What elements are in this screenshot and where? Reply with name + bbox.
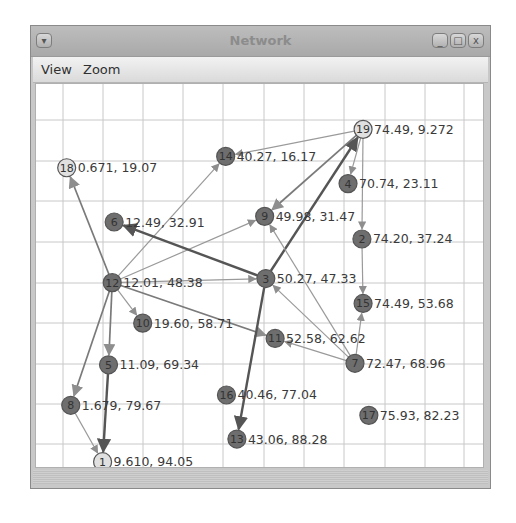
graph-node-17[interactable]: 1775.93, 82.23 bbox=[360, 406, 460, 424]
graph-node-12[interactable]: 1212.01, 48.38 bbox=[103, 274, 203, 292]
graph-node-1[interactable]: 19.610, 94.05 bbox=[94, 453, 194, 468]
window-title: Network bbox=[31, 33, 490, 48]
edge-2-to-15 bbox=[362, 248, 363, 293]
minimize-icon: _ bbox=[438, 35, 443, 46]
node-id: 13 bbox=[230, 433, 244, 446]
node-coordinate-label: 9.610, 94.05 bbox=[114, 454, 194, 468]
graph-node-6[interactable]: 612.49, 32.91 bbox=[105, 213, 205, 231]
edge-7-to-3 bbox=[273, 285, 348, 357]
graph-node-16[interactable]: 1640.46, 77.04 bbox=[217, 386, 317, 404]
graph-node-18[interactable]: 180.671, 19.07 bbox=[58, 159, 158, 177]
node-coordinate-label: 19.60, 58.71 bbox=[154, 316, 234, 331]
node-coordinate-label: 70.74, 23.11 bbox=[359, 176, 439, 191]
node-id: 15 bbox=[356, 297, 370, 310]
graph-node-4[interactable]: 470.74, 23.11 bbox=[339, 175, 439, 193]
node-coordinate-label: 72.47, 68.96 bbox=[366, 356, 446, 371]
node-coordinate-label: 40.46, 77.04 bbox=[237, 387, 317, 402]
node-id: 12 bbox=[105, 277, 119, 290]
graph-node-11[interactable]: 1152.58, 62.62 bbox=[266, 329, 366, 347]
edge-8-to-1 bbox=[75, 413, 97, 453]
edge-3-to-13 bbox=[239, 287, 265, 429]
node-id: 2 bbox=[358, 233, 365, 246]
node-id: 14 bbox=[219, 150, 233, 163]
node-coordinate-label: 0.671, 19.07 bbox=[78, 160, 158, 175]
graph-node-10[interactable]: 1019.60, 58.71 bbox=[134, 314, 234, 332]
menu-zoom[interactable]: Zoom bbox=[83, 62, 120, 77]
node-id: 4 bbox=[345, 178, 352, 191]
graph-node-9[interactable]: 949.98, 31.47 bbox=[256, 207, 356, 225]
graph-node-5[interactable]: 511.09, 69.34 bbox=[100, 356, 200, 374]
node-coordinate-label: 75.93, 82.23 bbox=[380, 408, 460, 423]
node-id: 10 bbox=[136, 317, 150, 330]
window-bottom-frame bbox=[33, 470, 488, 484]
node-id: 5 bbox=[105, 359, 112, 372]
menu-view[interactable]: View bbox=[41, 62, 72, 77]
nodes-layer: 19.610, 94.05274.20, 37.24350.27, 47.334… bbox=[58, 120, 460, 468]
graph-node-7[interactable]: 772.47, 68.96 bbox=[346, 354, 446, 372]
node-coordinate-label: 1.679, 79.67 bbox=[82, 398, 162, 413]
node-id: 9 bbox=[261, 210, 268, 223]
node-id: 11 bbox=[268, 332, 282, 345]
maximize-icon: □ bbox=[453, 35, 462, 46]
node-id: 6 bbox=[111, 216, 118, 229]
node-id: 3 bbox=[262, 273, 269, 286]
graph-node-15[interactable]: 1574.49, 53.68 bbox=[354, 294, 454, 312]
node-coordinate-label: 43.06, 88.28 bbox=[248, 432, 328, 447]
network-window: ▾ Network _ □ x View Zoom bbox=[30, 25, 491, 489]
node-coordinate-label: 12.49, 32.91 bbox=[125, 215, 205, 230]
node-id: 18 bbox=[60, 162, 74, 175]
close-button[interactable]: x bbox=[468, 33, 484, 48]
node-id: 1 bbox=[99, 456, 106, 468]
graph-node-8[interactable]: 81.679, 79.67 bbox=[62, 396, 162, 414]
graph-node-3[interactable]: 350.27, 47.33 bbox=[257, 270, 357, 288]
maximize-button[interactable]: □ bbox=[450, 33, 466, 48]
edge-19-to-4 bbox=[351, 138, 361, 174]
node-id: 19 bbox=[356, 123, 370, 136]
node-coordinate-label: 12.01, 48.38 bbox=[123, 275, 203, 290]
graph-node-2[interactable]: 274.20, 37.24 bbox=[353, 230, 453, 248]
graph-node-19[interactable]: 1974.49, 9.272 bbox=[354, 120, 454, 138]
node-coordinate-label: 74.49, 9.272 bbox=[374, 122, 454, 137]
graph-canvas[interactable]: 19.610, 94.05274.20, 37.24350.27, 47.334… bbox=[35, 83, 484, 468]
node-id: 16 bbox=[219, 389, 233, 402]
node-coordinate-label: 50.27, 47.33 bbox=[277, 271, 357, 286]
edge-12-to-8 bbox=[74, 291, 109, 396]
minimize-button[interactable]: _ bbox=[432, 33, 448, 48]
node-coordinate-label: 49.98, 31.47 bbox=[276, 209, 356, 224]
node-id: 7 bbox=[351, 357, 358, 370]
close-icon: x bbox=[473, 35, 479, 46]
graph-svg: 19.610, 94.05274.20, 37.24350.27, 47.334… bbox=[36, 84, 484, 468]
node-id: 8 bbox=[67, 399, 74, 412]
node-coordinate-label: 40.27, 16.17 bbox=[237, 149, 317, 164]
graph-node-14[interactable]: 1440.27, 16.17 bbox=[217, 147, 317, 165]
title-bar[interactable]: ▾ Network _ □ x bbox=[31, 26, 490, 57]
node-coordinate-label: 74.49, 53.68 bbox=[374, 296, 454, 311]
edge-12-to-10 bbox=[118, 290, 137, 315]
node-coordinate-label: 74.20, 37.24 bbox=[373, 231, 453, 246]
node-coordinate-label: 11.09, 69.34 bbox=[120, 357, 200, 372]
node-coordinate-label: 52.58, 62.62 bbox=[286, 331, 366, 346]
edge-3-to-6 bbox=[124, 225, 258, 275]
node-id: 17 bbox=[362, 409, 376, 422]
graph-node-13[interactable]: 1343.06, 88.28 bbox=[228, 430, 328, 448]
menu-bar: View Zoom bbox=[33, 57, 488, 83]
